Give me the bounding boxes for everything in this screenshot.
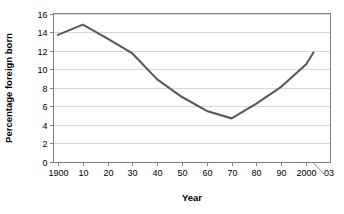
y-tick-label-16: 16 [37,10,47,20]
line-chart: 0246810121416 19001020304050607080902000… [0,0,344,214]
y-tick-label-8: 8 [42,84,47,94]
x-tick-label-60: 60 [202,168,212,178]
x-tick-label-40: 40 [152,168,162,178]
y-tick-label-6: 6 [42,102,47,112]
x-tick-label-30: 30 [127,168,137,178]
y-axis-title: Percentage foreign born [3,33,14,143]
x-axis-title: Year [182,192,202,203]
y-tick-label-12: 12 [37,47,47,57]
x-tick-label-03: 03 [324,168,334,178]
x-tick-label-10: 10 [78,168,88,178]
y-tick-label-0: 0 [42,158,47,168]
y-tick-label-10: 10 [37,65,47,75]
y-tick-label-4: 4 [42,121,47,131]
y-tick-label-14: 14 [37,28,47,38]
chart-container: 0246810121416 19001020304050607080902000… [0,0,344,214]
x-tick-label-70: 70 [227,168,237,178]
x-tick-label-90: 90 [276,168,286,178]
x-tick-label-50: 50 [177,168,187,178]
x-tick-label-2000: 2000 [296,168,316,178]
y-tick-label-2: 2 [42,139,47,149]
x-tick-label-1900: 1900 [48,168,68,178]
x-tick-label-80: 80 [251,168,261,178]
x-tick-label-20: 20 [103,168,113,178]
